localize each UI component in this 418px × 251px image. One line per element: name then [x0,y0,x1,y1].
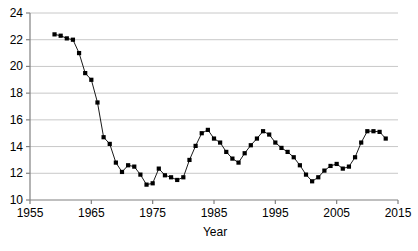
data-point-marker [261,129,265,133]
y-tick-label: 16 [10,113,24,127]
data-point-marker [138,173,142,177]
data-point-marker [378,130,382,134]
data-point-marker [187,158,191,162]
x-tick-label: 1975 [139,206,166,220]
data-point-marker [102,135,106,139]
data-point-marker [95,100,99,104]
data-point-marker [230,156,234,160]
y-tick-label: 12 [10,166,24,180]
data-point-marker [273,140,277,144]
data-point-marker [304,173,308,177]
data-point-marker [206,128,210,132]
y-tick-label: 20 [10,59,24,73]
data-point-marker [52,32,56,36]
x-tick-label: 1995 [262,206,289,220]
data-point-marker [359,140,363,144]
x-tick-label: 2015 [385,206,412,220]
x-tick-label: 1985 [201,206,228,220]
data-point-marker [255,136,259,140]
y-tick-label: 10 [10,193,24,207]
data-point-marker [218,140,222,144]
data-point-marker [175,178,179,182]
y-tick-label-group: 2422201816141210 [10,6,24,207]
data-point-marker [194,144,198,148]
data-point-marker [83,71,87,75]
y-tick-label: 18 [10,86,24,100]
data-point-marker [77,51,81,55]
data-point-marker [267,132,271,136]
data-point-marker [89,78,93,82]
data-point-marker [132,165,136,169]
data-point-marker [243,151,247,155]
data-point-marker [181,175,185,179]
data-point-marker [371,129,375,133]
gridline-group [30,13,398,173]
data-point-marker [286,150,290,154]
x-axis-title: Year [203,225,227,239]
data-point-marker [169,175,173,179]
x-tick-mark-group [30,200,398,204]
line-chart-plot: 2422201816141210 19551965197519851995200… [0,0,418,251]
x-tick-label: 1965 [78,206,105,220]
data-point-marker [347,165,351,169]
data-point-marker [279,146,283,150]
data-point-marker [353,155,357,159]
data-point-marker [59,34,63,38]
data-point-marker [126,163,130,167]
data-point-marker [310,179,314,183]
data-point-marker [71,38,75,42]
data-point-marker [236,161,240,165]
y-tick-label: 24 [10,6,24,20]
data-point-marker [298,163,302,167]
data-point-marker [224,150,228,154]
data-point-marker [341,167,345,171]
data-point-marker [200,131,204,135]
data-point-marker [316,175,320,179]
data-point-marker [335,162,339,166]
data-point-marker [249,143,253,147]
data-point-marker [151,181,155,185]
data-point-marker [108,142,112,146]
data-point-marker [328,164,332,168]
data-point-marker [65,36,69,40]
data-point-marker [163,173,167,177]
chart-figure: 2422201816141210 19551965197519851995200… [0,0,418,251]
data-point-marker [212,136,216,140]
data-point-marker [384,136,388,140]
data-point-marker [292,155,296,159]
x-tick-label: 1955 [17,206,44,220]
data-point-marker [120,170,124,174]
y-tick-label: 22 [10,33,24,47]
data-point-marker [365,129,369,133]
y-tick-label: 14 [10,140,24,154]
data-point-marker [144,183,148,187]
x-tick-label-group: 1955196519751985199520052015 [17,206,412,220]
data-point-marker-group [52,32,387,186]
x-tick-label: 2005 [323,206,350,220]
data-point-marker [157,167,161,171]
data-point-marker [114,161,118,165]
data-point-marker [322,169,326,173]
